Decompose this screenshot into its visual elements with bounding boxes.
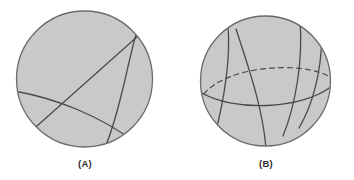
diagram-canvas xyxy=(0,0,354,180)
panel-label-a: (A) xyxy=(55,158,115,169)
panel-b-group xyxy=(200,16,332,149)
panel-label-b: (B) xyxy=(236,158,296,169)
panel-a-group xyxy=(14,11,153,147)
figure-container: (A) (B) xyxy=(0,0,354,180)
